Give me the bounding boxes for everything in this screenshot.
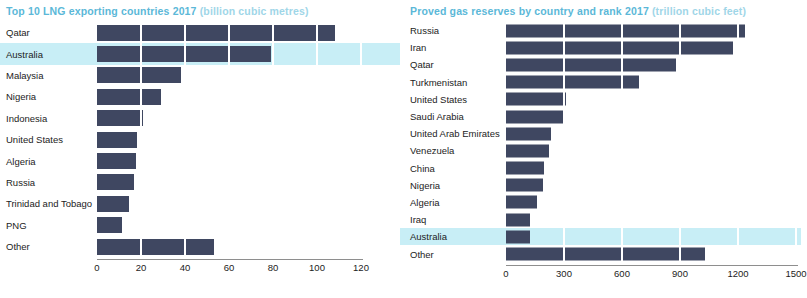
x-axis-tick-label: 1500	[785, 268, 806, 279]
bar-row: Turkmenistan	[400, 74, 801, 91]
x-axis-tick-label: 100	[309, 262, 325, 273]
bar	[97, 46, 271, 62]
plot-area-lng-exporters: QatarAustraliaMalaysiaNigeriaIndonesiaUn…	[0, 22, 400, 298]
bar-row-label: Algeria	[0, 156, 97, 167]
chart-panel-proved-gas-reserves: Proved gas reserves by country and rank …	[400, 0, 801, 298]
bar-row-label: Indonesia	[0, 113, 97, 124]
bar-row: Iraq	[400, 211, 801, 228]
bar-track	[506, 74, 801, 91]
bar-track	[97, 129, 400, 150]
chart-title-proved-gas-reserves: Proved gas reserves by country and rank …	[410, 5, 746, 17]
bar-row: United States	[0, 129, 400, 150]
bar-row-label: Trinidad and Tobago	[0, 198, 97, 209]
bar	[506, 76, 639, 89]
bar-row: Iran	[400, 39, 801, 56]
bar	[97, 67, 181, 83]
bar-row-label: Nigeria	[400, 180, 506, 191]
axis-line	[97, 259, 363, 260]
bar-row: Australia	[0, 43, 400, 64]
chart-title-lng-exporters: Top 10 LNG exporting countries 2017 (bil…	[6, 5, 309, 17]
bar	[506, 144, 549, 157]
axis-line	[506, 265, 798, 266]
bar-row-label: PNG	[0, 220, 97, 231]
bar-track	[506, 91, 801, 108]
bar-row: Nigeria	[0, 86, 400, 107]
chart-panel-lng-exporters: Top 10 LNG exporting countries 2017 (bil…	[0, 0, 400, 298]
bar-track	[506, 22, 801, 39]
bar-track	[97, 150, 400, 171]
bar-track	[97, 86, 400, 107]
bar	[506, 58, 676, 71]
x-axis-proved-gas-reserves: 030060090012001500	[400, 265, 801, 285]
bar	[506, 213, 530, 226]
bar	[506, 179, 543, 192]
bar	[506, 24, 745, 37]
x-axis-tick-label: 1200	[727, 268, 748, 279]
bar-track	[506, 211, 801, 228]
x-axis-tick-label: 600	[614, 268, 630, 279]
bar-rows-lng-exporters: QatarAustraliaMalaysiaNigeriaIndonesiaUn…	[0, 22, 400, 257]
bar-row: Russia	[0, 172, 400, 193]
bar-row-label: Other	[400, 249, 506, 260]
x-axis-tick-label: 0	[503, 268, 508, 279]
bar-track	[97, 43, 400, 64]
bar-row-label: Other	[0, 241, 97, 252]
bar-track	[506, 177, 801, 194]
bar	[97, 89, 161, 105]
bar-row-label: Venezuela	[400, 145, 506, 156]
bar-row-label: Iran	[400, 42, 506, 53]
bar	[97, 153, 136, 169]
x-axis-tick-label: 20	[136, 262, 147, 273]
x-axis-lng-exporters: 020406080100120	[0, 259, 400, 279]
chart-title-unit: (billion cubic metres)	[200, 5, 309, 17]
bar	[506, 41, 733, 54]
bar-row: Nigeria	[400, 177, 801, 194]
bar-track	[97, 193, 400, 214]
bar-row: Algeria	[0, 150, 400, 171]
bar	[506, 93, 566, 106]
bar	[506, 248, 705, 261]
bar-row-label: Qatar	[0, 27, 97, 38]
bar-row: Other	[0, 236, 400, 257]
x-axis-tick-label: 900	[672, 268, 688, 279]
bar-rows-proved-gas-reserves: RussiaIranQatarTurkmenistanUnited States…	[400, 22, 801, 263]
bar-row: Saudi Arabia	[400, 108, 801, 125]
bar-row: United Arab Emirates	[400, 125, 801, 142]
bar-row-label: United Arab Emirates	[400, 128, 506, 139]
bar	[97, 110, 143, 126]
bar-row-label: Iraq	[400, 214, 506, 225]
bar-row: Russia	[400, 22, 801, 39]
bar-track	[506, 228, 801, 245]
x-axis-tick-label: 300	[556, 268, 572, 279]
bar-track	[97, 172, 400, 193]
bar-row-label: Russia	[400, 25, 506, 36]
bar-track	[506, 142, 801, 159]
bar-track	[506, 39, 801, 56]
plot-area-proved-gas-reserves: RussiaIranQatarTurkmenistanUnited States…	[400, 22, 801, 298]
bar-row-label: Nigeria	[0, 91, 97, 102]
bar-row: Algeria	[400, 194, 801, 211]
bar-track	[97, 65, 400, 86]
bar	[506, 110, 564, 123]
chart-title-unit: (trillion cubic feet)	[652, 5, 746, 17]
bar-row: Australia	[400, 228, 801, 245]
bar-track	[97, 236, 400, 257]
bar-row-label: Russia	[0, 177, 97, 188]
bar	[97, 174, 134, 190]
bar-track	[506, 56, 801, 73]
bar-row: United States	[400, 91, 801, 108]
bar-row-label: United States	[400, 94, 506, 105]
bar-row-label: Malaysia	[0, 70, 97, 81]
bar-track	[506, 108, 801, 125]
bar-row: Qatar	[0, 22, 400, 43]
chart-title-main: Top 10 LNG exporting countries 2017	[6, 5, 197, 17]
bar-row: Venezuela	[400, 142, 801, 159]
x-axis-tick-label: 80	[268, 262, 279, 273]
bar-row-label: Algeria	[400, 197, 506, 208]
x-axis-tick-label: 0	[94, 262, 99, 273]
x-axis-tick-label: 120	[353, 262, 369, 273]
bar-row-label: United States	[0, 134, 97, 145]
bar-row: Indonesia	[0, 108, 400, 129]
bar-row-label: Turkmenistan	[400, 77, 506, 88]
